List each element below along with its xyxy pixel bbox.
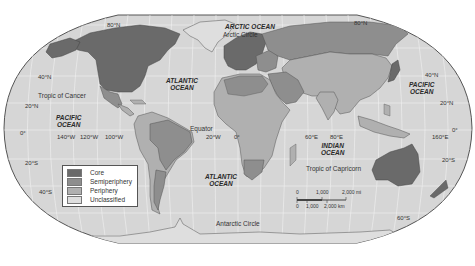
lat-0-left: 0° (20, 130, 26, 136)
lat-80n-left: 80°N (107, 22, 120, 28)
pacific-ocean-west-label: PACIFIC OCEAN (56, 114, 82, 129)
lat-20s-left: 20°S (25, 160, 38, 166)
tropic-of-capricorn-label: Tropic of Capricorn (306, 166, 361, 173)
atlantic-north-line1: ATLANTIC (166, 77, 198, 84)
map-legend: Core Semiperiphery Periphery Unclassifie… (62, 165, 138, 207)
pacific-east-line2: OCEAN (409, 88, 435, 95)
legend-label-unclassified: Unclassified (90, 196, 125, 203)
lon-80e: 80°E (330, 134, 343, 140)
legend-label-semiperiphery: Semiperiphery (90, 178, 132, 185)
lat-40s-left: 40°S (39, 189, 52, 195)
lat-20n-right: 20°N (440, 100, 453, 106)
philippines (384, 104, 390, 116)
equator-label: Equator (190, 126, 213, 133)
atlantic-south-line1: ATLANTIC (205, 173, 237, 180)
semiperiphery-swatch (67, 178, 82, 186)
lon-120w: 120°W (80, 134, 98, 140)
lat-20n-left: 20°N (25, 103, 38, 109)
legend-item-periphery: Periphery (67, 186, 133, 195)
pacific-ocean-east-label: PACIFIC OCEAN (409, 81, 435, 96)
atlantic-ocean-north-label: ATLANTIC OCEAN (166, 77, 198, 92)
lat-0-right: 0° (452, 127, 458, 133)
indian-line2: OCEAN (321, 149, 344, 156)
legend-item-unclassified: Unclassified (67, 195, 133, 204)
scale-km-0: 0 (296, 204, 299, 209)
periphery-swatch (67, 187, 82, 195)
lat-60s-right: 60°S (397, 215, 410, 221)
scale-mi-1000: 1,000 (316, 190, 329, 195)
lat-80n-right: 80°N (354, 20, 367, 26)
tropic-of-cancer-label: Tropic of Cancer (38, 93, 86, 100)
pacific-west-line2: OCEAN (56, 121, 82, 128)
scale-bar: 0 1,000 2,000 mi 0 1,000 2,000 km (296, 190, 366, 216)
lon-20w: 20°W (206, 134, 221, 140)
lon-140w: 140°W (57, 134, 75, 140)
lat-40n-left: 40°N (38, 74, 51, 80)
legend-label-core: Core (90, 169, 104, 176)
lat-20s-right: 20°S (442, 157, 455, 163)
unclassified-swatch (67, 196, 82, 204)
lon-160e: 160°E (432, 134, 448, 140)
scale-km-1000: 1,000 (306, 204, 319, 209)
lat-40n-right: 40°N (425, 72, 438, 78)
legend-label-periphery: Periphery (90, 187, 118, 194)
core-swatch (67, 169, 82, 177)
antarctic-circle-label: Antarctic Circle (216, 221, 260, 228)
pacific-west-line1: PACIFIC (56, 114, 82, 121)
atlantic-south-line2: OCEAN (205, 180, 237, 187)
scale-mi-2000: 2,000 mi (342, 190, 361, 195)
atlantic-north-line2: OCEAN (166, 84, 198, 91)
lon-60e: 60°E (305, 134, 318, 140)
indian-line1: INDIAN (321, 142, 344, 149)
pacific-east-line1: PACIFIC (409, 81, 435, 88)
legend-item-semiperiphery: Semiperiphery (67, 177, 133, 186)
lon-0: 0° (234, 134, 240, 140)
lon-100w: 100°W (105, 134, 123, 140)
scale-km-2000: 2,000 km (324, 204, 345, 209)
indian-ocean-label: INDIAN OCEAN (321, 142, 344, 157)
scale-mi-0: 0 (296, 190, 299, 195)
legend-item-core: Core (67, 168, 133, 177)
arctic-circle-label: Arctic Circle (223, 32, 258, 39)
atlantic-ocean-south-label: ATLANTIC OCEAN (205, 173, 237, 188)
arctic-ocean-label: ARCTIC OCEAN (225, 23, 275, 30)
